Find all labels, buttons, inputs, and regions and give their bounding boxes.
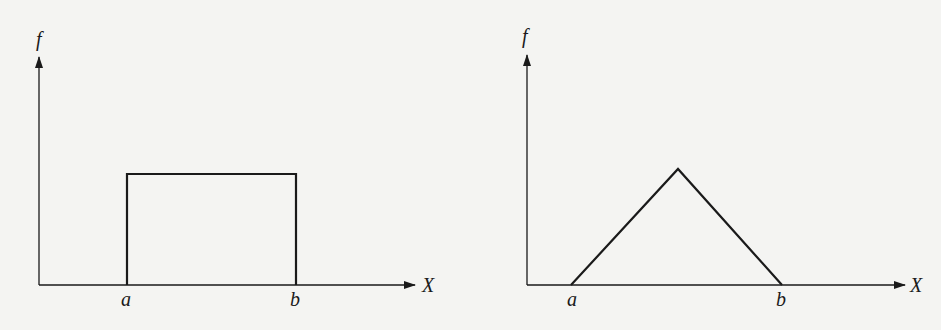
x-axis-label: X: [421, 274, 435, 296]
tick-label-a: a: [567, 288, 577, 310]
tick-label-a: a: [121, 288, 131, 310]
distribution-diagrams: f X a b f X a b: [0, 0, 941, 330]
y-axis-label: f: [522, 25, 530, 48]
tick-label-b: b: [776, 288, 786, 310]
y-axis-label: f: [36, 28, 44, 51]
x-axis-label: X: [909, 274, 923, 296]
uniform-distribution-figure: f X a b: [36, 28, 435, 310]
triangular-distribution-figure: f X a b: [522, 25, 923, 310]
triangle-shape: [571, 169, 782, 285]
uniform-rectangle: [127, 174, 296, 285]
tick-label-b: b: [290, 288, 300, 310]
